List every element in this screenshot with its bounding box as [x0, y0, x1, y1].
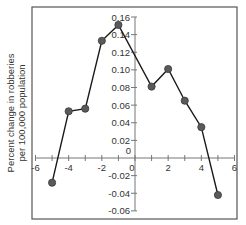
y-axis-label-line-1: Percent change in robberies: [5, 53, 16, 172]
x-tick-labels: -6-4-20246: [31, 162, 237, 173]
x-tick-label: 2: [166, 162, 171, 173]
line-chart: 0.160.140.120.100.080.060.040.020-0.02-0…: [0, 0, 246, 225]
data-point: [214, 191, 221, 198]
data-point: [48, 179, 55, 186]
y-tick-label: -0.02: [108, 170, 130, 181]
y-tick-label: -0.06: [108, 205, 130, 216]
y-tick-label: 0.08: [112, 82, 131, 93]
y-tick-label: -0.04: [108, 188, 130, 199]
data-point: [198, 124, 205, 131]
x-tick-label: -4: [64, 162, 72, 173]
x-tick-label: -2: [98, 162, 106, 173]
x-tick-label: -6: [31, 162, 39, 173]
y-tick-label: 0.04: [112, 117, 131, 128]
data-point: [115, 21, 122, 28]
y-tick-label: 0: [126, 145, 131, 156]
y-tick-label: 0.16: [112, 12, 131, 23]
data-point: [98, 37, 105, 44]
y-tick-label: 0.12: [112, 47, 131, 58]
data-point: [148, 83, 155, 90]
data-point: [82, 105, 89, 112]
y-tick-label: 0.06: [112, 100, 131, 111]
y-tick-label: 0.14: [112, 29, 131, 40]
data-point: [165, 65, 172, 72]
axes: [36, 17, 235, 211]
x-tick-label: 0: [129, 162, 134, 173]
data-point: [181, 97, 188, 104]
y-axis-label: Percent change in robberies per 100,000 …: [5, 53, 27, 172]
y-axis-label-line-2: per 100,000 population: [16, 64, 27, 161]
y-tick-label: 0.10: [112, 64, 131, 75]
data-point: [65, 108, 72, 115]
x-tick-label: 4: [199, 162, 204, 173]
x-tick-label: 6: [232, 162, 237, 173]
